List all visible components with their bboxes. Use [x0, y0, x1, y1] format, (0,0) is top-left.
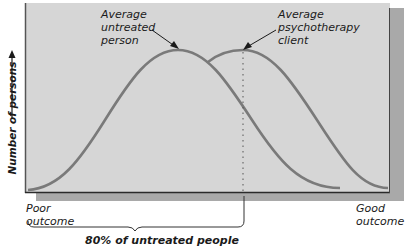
y-axis-arrow-icon: [6, 50, 18, 120]
label-brace-80-percent: 80% of untreated people: [85, 234, 239, 247]
label-average-untreated: Average untreated person: [101, 8, 155, 47]
label-good-outcome: Good outcome: [356, 202, 404, 228]
label-average-client: Average psychotherapy client: [278, 8, 360, 47]
label-poor-outcome: Poor outcome: [26, 202, 74, 228]
panel-shadow-right: [390, 8, 404, 200]
panel-shadow-bottom: [36, 193, 404, 201]
